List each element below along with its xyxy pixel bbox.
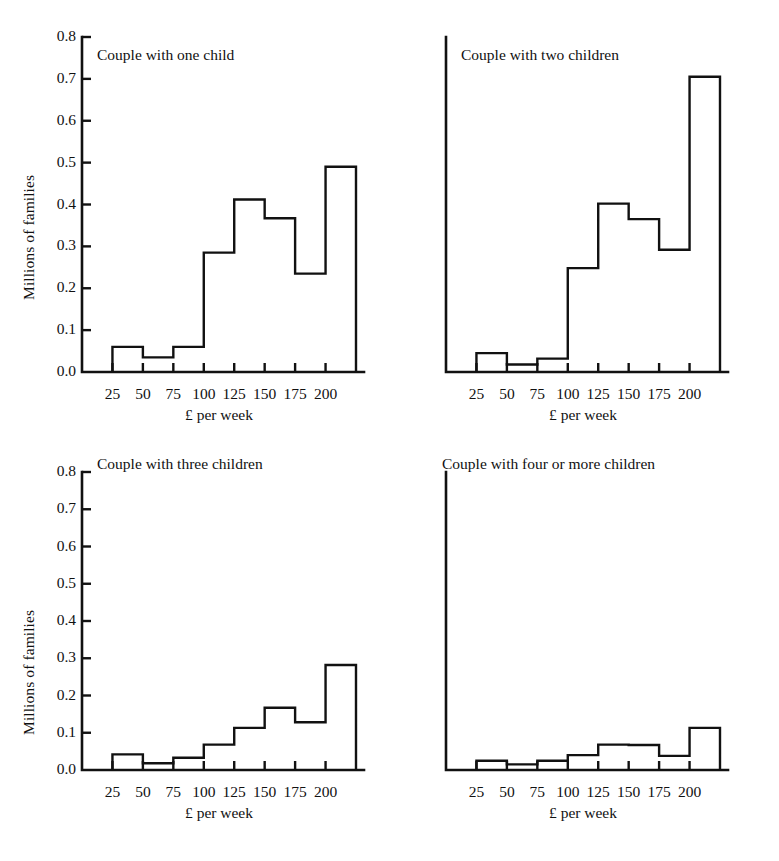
- y-tick-label: 0.0: [34, 760, 76, 778]
- histogram-outline: [112, 665, 356, 770]
- panel-title-0: Couple with one child: [97, 46, 234, 64]
- axis-spine: [446, 472, 728, 770]
- panel-title-1: Couple with two children: [461, 46, 619, 64]
- panel-one-child: Millions of families Couple with one chi…: [0, 0, 390, 430]
- histogram-figure: Millions of families Couple with one chi…: [0, 0, 779, 861]
- y-tick-label: 0.7: [34, 499, 76, 517]
- y-tick-label: 0.3: [34, 236, 76, 254]
- y-tick-label: 0.1: [34, 723, 76, 741]
- panel-title-3: Couple with four or more children: [442, 455, 655, 473]
- x-tick-label: 200: [304, 783, 348, 801]
- x-tick-label: 200: [668, 385, 712, 403]
- y-tick-label: 0.1: [34, 320, 76, 338]
- y-tick-label: 0.0: [34, 362, 76, 380]
- axis-spine: [82, 472, 364, 770]
- x-axis-label: £ per week: [139, 406, 299, 424]
- x-axis-label: £ per week: [503, 804, 663, 822]
- panel-title-2: Couple with three children: [97, 455, 263, 473]
- y-tick-label: 0.6: [34, 111, 76, 129]
- y-tick-label: 0.7: [34, 69, 76, 87]
- x-tick-label: 200: [304, 385, 348, 403]
- x-axis-label: £ per week: [503, 406, 663, 424]
- panel-four-or-more-children: Couple with four or more children 255075…: [389, 430, 779, 861]
- y-tick-label: 0.8: [34, 27, 76, 45]
- y-tick-label: 0.3: [34, 648, 76, 666]
- y-tick-label: 0.5: [34, 574, 76, 592]
- histogram-outline: [112, 167, 356, 372]
- histogram-outline: [476, 77, 720, 372]
- panel-three-children: Millions of families Couple with three c…: [0, 430, 390, 861]
- x-tick-label: 200: [668, 783, 712, 801]
- y-tick-label: 0.5: [34, 153, 76, 171]
- axis-spine: [446, 37, 728, 372]
- y-tick-label: 0.8: [34, 462, 76, 480]
- y-tick-label: 0.6: [34, 537, 76, 555]
- panel-two-children: Couple with two children 255075100125150…: [389, 0, 779, 430]
- plot-area-1: [389, 0, 779, 430]
- y-tick-label: 0.4: [34, 611, 76, 629]
- y-tick-label: 0.2: [34, 278, 76, 296]
- x-axis-label: £ per week: [139, 804, 299, 822]
- axis-spine: [82, 37, 364, 372]
- y-tick-label: 0.2: [34, 686, 76, 704]
- y-tick-label: 0.4: [34, 195, 76, 213]
